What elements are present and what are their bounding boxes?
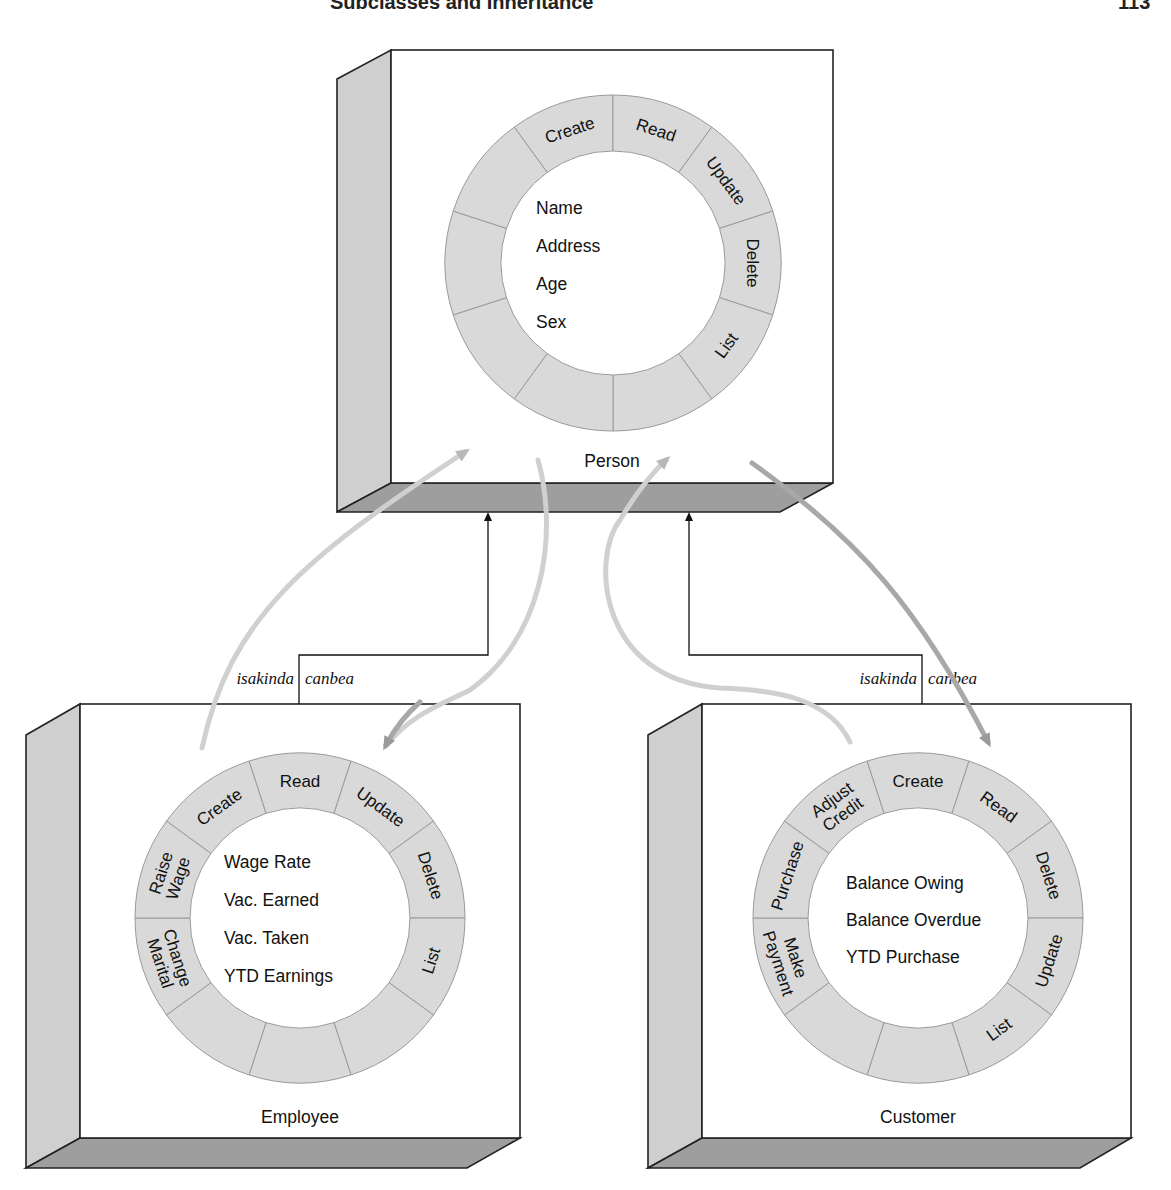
class-box-customer[interactable]: CreateReadDeleteUpdateListMakePaymentPur… <box>648 704 1131 1168</box>
attribute-item: Name <box>536 198 583 218</box>
attribute-item: Balance Overdue <box>846 910 981 930</box>
attribute-item: YTD Earnings <box>224 966 333 986</box>
class-name: Customer <box>880 1107 956 1127</box>
operation-label: Create <box>892 772 943 791</box>
class-box-employee[interactable]: ReadUpdateDeleteListChangeMaritalRaiseWa… <box>26 704 520 1168</box>
inheritance-connector-employee[interactable]: isakinda canbea <box>236 516 488 704</box>
class-name: Person <box>584 451 639 471</box>
box-bottom-face <box>648 1138 1131 1168</box>
attribute-item: Address <box>536 236 600 256</box>
box-side-face <box>26 704 80 1168</box>
class-name: Employee <box>261 1107 339 1127</box>
class-box-person[interactable]: CreateReadUpdateDeleteList Name Address … <box>337 50 833 512</box>
operation-label: Read <box>280 772 321 791</box>
relationship-label-isakinda: isakinda <box>236 669 294 688</box>
box-side-face <box>337 50 391 512</box>
relationship-label-isakinda: isakinda <box>859 669 917 688</box>
operation-segment <box>867 1023 969 1083</box>
operation-segment <box>445 211 506 315</box>
box-side-face <box>648 704 702 1168</box>
attribute-item: Age <box>536 274 567 294</box>
inheritance-connector-customer[interactable]: isakinda canbea <box>689 516 977 704</box>
box-bottom-face <box>26 1138 520 1168</box>
attribute-item: Wage Rate <box>224 852 311 872</box>
operation-label: Delete <box>743 238 762 287</box>
attribute-item: Vac. Taken <box>224 928 309 948</box>
operation-segment <box>249 1023 351 1083</box>
attribute-item: YTD Purchase <box>846 947 960 967</box>
class-hierarchy-diagram: CreateReadUpdateDeleteList Name Address … <box>0 0 1171 1190</box>
attribute-item: Sex <box>536 312 566 332</box>
relationship-label-canbea: canbea <box>305 669 354 688</box>
attribute-item: Balance Owing <box>846 873 964 893</box>
attribute-item: Vac. Earned <box>224 890 319 910</box>
